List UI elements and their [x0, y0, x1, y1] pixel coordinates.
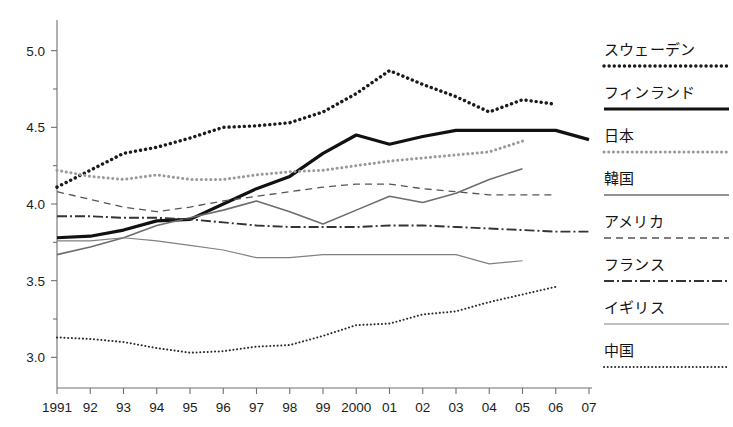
x-tick-label: 99 — [315, 400, 330, 415]
legend-label: 日本 — [604, 127, 634, 145]
legend-label: イギリス — [604, 299, 665, 317]
x-tick-label: 06 — [548, 400, 563, 415]
series-line-5 — [57, 184, 556, 212]
x-tick-label: 97 — [249, 400, 264, 415]
x-axis-tick-labels: 19919293949596979899200001020304050607 — [42, 400, 597, 415]
line-chart: 5.04.54.03.53.0 199192939495969798992000… — [0, 0, 733, 427]
y-axis-tick-labels: 5.04.54.03.53.0 — [26, 44, 45, 366]
series-line-3 — [57, 141, 523, 179]
series-line-8 — [57, 287, 556, 353]
chart-axes — [51, 20, 592, 394]
x-tick-label: 1991 — [42, 400, 72, 415]
x-tick-label: 98 — [282, 400, 297, 415]
x-tick-label: 93 — [116, 400, 131, 415]
chart-figure: 5.04.54.03.53.0 199192939495969798992000… — [0, 0, 733, 427]
chart-legend: スウェーデンフィンランド日本韓国アメリカフランスイギリス中国 — [604, 41, 729, 367]
legend-item-8[interactable]: 中国 — [604, 342, 729, 367]
chart-series — [57, 71, 589, 353]
x-tick-label: 04 — [482, 400, 498, 415]
y-tick-label: 5.0 — [26, 44, 45, 59]
legend-label: アメリカ — [604, 213, 664, 231]
legend-item-5[interactable]: アメリカ — [604, 213, 729, 238]
legend-item-6[interactable]: フランス — [604, 256, 729, 281]
x-tick-label: 92 — [83, 400, 98, 415]
legend-item-7[interactable]: イギリス — [604, 299, 729, 324]
legend-item-4[interactable]: 韓国 — [604, 170, 729, 195]
x-tick-label: 2000 — [341, 400, 371, 415]
legend-item-2[interactable]: フィンランド — [604, 84, 729, 109]
x-tick-label: 07 — [581, 400, 596, 415]
legend-label: スウェーデン — [604, 41, 695, 59]
x-tick-label: 94 — [149, 400, 165, 415]
series-line-4 — [57, 169, 523, 255]
legend-item-3[interactable]: 日本 — [604, 127, 729, 152]
series-line-7 — [57, 238, 523, 264]
y-tick-label: 4.0 — [26, 197, 45, 212]
x-tick-label: 95 — [182, 400, 197, 415]
x-tick-label: 01 — [382, 400, 397, 415]
legend-item-1[interactable]: スウェーデン — [604, 41, 729, 66]
x-tick-label: 02 — [415, 400, 430, 415]
y-tick-label: 4.5 — [26, 120, 45, 135]
legend-label: フランス — [604, 256, 665, 274]
x-tick-label: 05 — [515, 400, 530, 415]
x-tick-label: 03 — [448, 400, 463, 415]
y-tick-label: 3.0 — [26, 350, 45, 365]
legend-label: フィンランド — [604, 84, 695, 102]
legend-label: 中国 — [604, 342, 634, 360]
y-tick-label: 3.5 — [26, 274, 45, 289]
x-tick-label: 96 — [216, 400, 231, 415]
legend-label: 韓国 — [604, 170, 634, 188]
